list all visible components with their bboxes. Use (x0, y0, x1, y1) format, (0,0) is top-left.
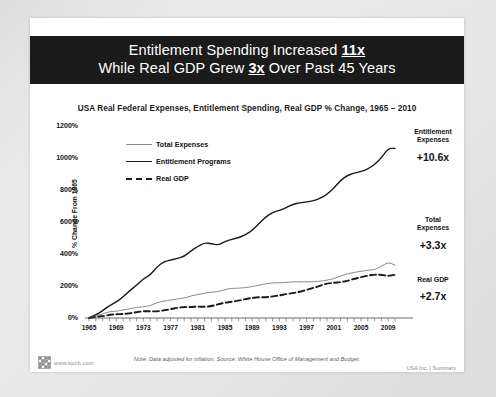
chart: % Change From 1965 0%200%400%600%800%100… (30, 118, 464, 350)
annotation-series-name-2: Expenses (402, 136, 464, 144)
annotation-multiple-value: +2.7x (402, 290, 464, 302)
legend-item-label: Entitlement Programs (156, 157, 231, 166)
legend-item-label: Real GDP (156, 174, 189, 183)
chart-legend: Total ExpensesEntitlement ProgramsReal G… (126, 136, 231, 187)
series-line (89, 263, 395, 318)
legend-line-swatch (126, 174, 152, 184)
title-line-2-suffix: Over Past 45 Years (265, 60, 396, 76)
title-line-1-text: Entitlement Spending Increased (129, 42, 342, 58)
slide-canvas: Entitlement Spending Increased 11x While… (30, 18, 464, 372)
annotation-series-name: Entitlement (402, 128, 464, 136)
legend-item[interactable]: Entitlement Programs (126, 153, 231, 170)
legend-line-swatch (126, 157, 152, 167)
series-line (89, 275, 395, 318)
legend-item-label: Total Expenses (156, 140, 208, 149)
title-line-1-emphasis: 11x (341, 42, 365, 58)
series-end-annotation: TotalExpenses+3.3x (402, 216, 464, 251)
legend-item[interactable]: Total Expenses (126, 136, 231, 153)
legend-item[interactable]: Real GDP (126, 170, 231, 187)
title-line-2-text: While Real GDP Grew (98, 60, 248, 76)
footer-source-note: Note: Data adjusted for inflation. Sourc… (30, 356, 464, 362)
series-end-annotation: Real GDP+2.7x (402, 276, 464, 302)
annotation-series-name: Real GDP (402, 276, 464, 284)
chart-subtitle: USA Real Federal Expenses, Entitlement S… (30, 104, 464, 113)
slide-footer: www.kpcb.com Note: Data adjusted for inf… (30, 354, 464, 372)
series-end-annotation: EntitlementExpenses+10.6x (402, 128, 464, 163)
annotation-multiple-value: +3.3x (402, 239, 464, 251)
axis-group (85, 318, 413, 322)
annotation-series-name-2: Expenses (402, 224, 464, 232)
title-banner: Entitlement Spending Increased 11x While… (30, 36, 464, 84)
plot-svg (30, 118, 464, 350)
legend-line-swatch (126, 140, 152, 150)
title-line-2: While Real GDP Grew 3x Over Past 45 Year… (98, 60, 395, 78)
annotation-series-name: Total (402, 216, 464, 224)
title-line-1: Entitlement Spending Increased 11x (129, 42, 365, 60)
footer-deck-label: USA Inc. | Summary (407, 365, 456, 371)
title-line-2-emphasis: 3x (248, 60, 264, 76)
annotation-multiple-value: +10.6x (402, 151, 464, 163)
